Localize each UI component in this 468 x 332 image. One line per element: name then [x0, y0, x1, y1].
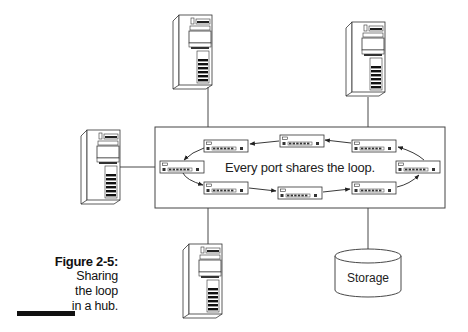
caption-line: Sharing: [0, 269, 118, 284]
port-device-top-right: [352, 140, 396, 152]
caption-line: the loop: [0, 284, 118, 299]
tower-server-icon: [346, 22, 385, 96]
tower-server-icon: [183, 244, 222, 318]
figure-number: Figure 2-5:: [0, 254, 118, 269]
tower-server-icon: [173, 15, 212, 89]
tower-server-icon: [81, 130, 120, 204]
port-device-bottom-center: [278, 187, 322, 199]
port-device-left: [160, 161, 204, 173]
port-device-bottom-left: [204, 182, 248, 194]
port-device-right: [396, 161, 440, 173]
port-device-top-center: [280, 135, 324, 147]
port-device-top-left: [204, 140, 248, 152]
figure-caption: Figure 2-5: Sharing the loop in a hub.: [0, 254, 118, 314]
hub-label: Every port shares the loop.: [215, 160, 385, 175]
port-device-bottom-right: [352, 182, 396, 194]
caption-divider: [17, 311, 75, 316]
storage-label: Storage: [335, 271, 401, 285]
